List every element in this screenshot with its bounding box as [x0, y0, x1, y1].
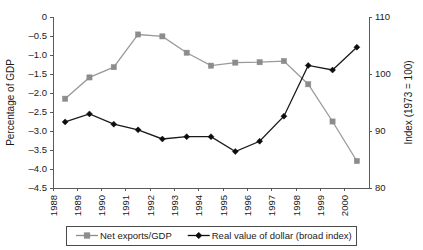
data-point-net-exports	[184, 50, 189, 55]
data-point-dollar-index	[232, 149, 238, 155]
data-point-dollar-index	[135, 127, 141, 133]
x-axis-tick-label: 1994	[193, 195, 204, 216]
data-point-dollar-index	[208, 134, 214, 140]
y-axis-right-tick-label: 80	[375, 182, 386, 193]
data-point-net-exports	[281, 58, 286, 63]
data-point-dollar-index	[184, 134, 190, 140]
x-axis-tick-label: 1993	[169, 195, 180, 216]
data-point-net-exports	[306, 82, 311, 87]
data-point-dollar-index	[305, 62, 311, 68]
data-point-net-exports	[135, 32, 140, 37]
data-point-net-exports	[257, 60, 262, 65]
y-axis-left-tick-label: –2.0	[29, 87, 48, 98]
data-point-net-exports	[354, 158, 359, 163]
x-axis-tick-label: 1989	[72, 195, 83, 216]
legend-label-1: Real value of dollar (broad index)	[212, 230, 352, 241]
x-axis-tick-label: 1992	[145, 195, 156, 216]
y-axis-left-tick-label: –1.5	[29, 68, 48, 79]
x-axis-tick-label: 1990	[96, 195, 107, 216]
y-axis-left-title: Percentage of GDP	[5, 59, 16, 146]
x-axis-tick-label: 1991	[120, 195, 131, 216]
data-point-net-exports	[160, 34, 165, 39]
y-axis-left-tick-label: –0.5	[29, 30, 48, 41]
series-layer	[62, 32, 360, 164]
axis-titles: Percentage of GDPIndex (1973 = 100)	[5, 59, 414, 146]
data-point-dollar-index	[111, 121, 117, 127]
data-point-dollar-index	[62, 119, 68, 125]
chart-legend: Net exports/GDPReal value of dollar (bro…	[66, 226, 356, 245]
x-axis-tick-label: 1997	[266, 195, 277, 216]
y-axis-left-tick-label: –3.0	[29, 125, 48, 136]
y-axis-left: 0–0.5–1.0–1.5–2.0–2.5–3.0–3.5–4.0–4.5	[29, 11, 54, 193]
y-axis-right-tick-label: 90	[375, 125, 386, 136]
x-axis-tick-label: 1998	[291, 195, 302, 216]
data-point-net-exports	[63, 96, 68, 101]
legend-marker-square	[84, 233, 89, 238]
data-point-dollar-index	[159, 136, 165, 142]
y-axis-right-tick-label: 110	[375, 11, 390, 22]
y-axis-right-tick-label: 100	[375, 68, 391, 79]
x-axis-tick-label: 1988	[48, 195, 59, 216]
data-point-net-exports	[208, 63, 213, 68]
legend-label-0: Net exports/GDP	[100, 230, 172, 241]
chart-figure: 0–0.5–1.0–1.5–2.0–2.5–3.0–3.5–4.0–4.5 80…	[0, 0, 423, 250]
y-axis-right: 8090100110	[369, 11, 391, 193]
y-axis-left-tick-label: 0	[42, 11, 47, 22]
y-axis-left-tick-label: –4.5	[29, 182, 48, 193]
y-axis-left-tick-label: –3.5	[29, 144, 48, 155]
series-line-net-exports	[65, 34, 357, 161]
x-axis-tick-label: 1996	[242, 195, 253, 216]
y-axis-left-tick-label: –4.0	[29, 163, 48, 174]
data-point-dollar-index	[86, 111, 92, 117]
data-point-net-exports	[233, 60, 238, 65]
x-axis-tick-label: 1995	[218, 195, 229, 216]
y-axis-left-tick-label: –2.5	[29, 106, 48, 117]
x-axis: 1988198919901991199219931994199519961997…	[48, 188, 370, 216]
data-point-net-exports	[87, 75, 92, 80]
y-axis-left-tick-label: –1.0	[29, 49, 48, 60]
data-point-net-exports	[111, 65, 116, 70]
legend-marker-diamond	[196, 233, 202, 239]
y-axis-right-title: Index (1973 = 100)	[403, 60, 414, 144]
x-axis-tick-label: 1999	[315, 195, 326, 216]
data-point-net-exports	[330, 119, 335, 124]
x-axis-tick-label: 2000	[339, 195, 350, 216]
chart-canvas: 0–0.5–1.0–1.5–2.0–2.5–3.0–3.5–4.0–4.5 80…	[0, 0, 423, 250]
